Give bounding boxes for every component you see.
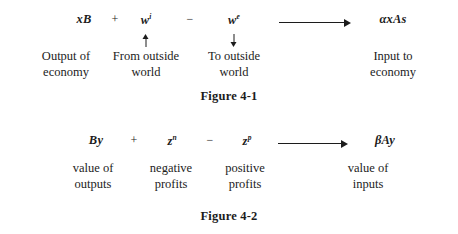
minus-operator: − xyxy=(207,133,214,148)
column-label: Input toeconomy xyxy=(370,49,416,80)
label-line-2: economy xyxy=(42,65,90,81)
column-label: value ofinputs xyxy=(348,161,389,192)
equation-term: αxAs xyxy=(379,12,406,27)
column-label: Output ofeconomy xyxy=(42,49,90,80)
label-line-1: From outside xyxy=(113,49,179,63)
label-line-2: world xyxy=(208,65,260,81)
equation-term: βAy xyxy=(375,133,395,148)
label-line-1: value of xyxy=(73,161,114,175)
figure-4-2: ByznzpβAy+− value ofoutputsnegativeprofi… xyxy=(0,133,458,195)
label-row: Output ofeconomyFrom outsideworldTo outs… xyxy=(0,49,458,83)
column-label: positiveprofits xyxy=(225,161,265,192)
up-arrow-icon xyxy=(142,34,151,47)
label-line-2: profits xyxy=(150,177,192,193)
label-line-1: negative xyxy=(150,161,192,175)
label-line-2: inputs xyxy=(348,177,389,193)
label-line-2: economy xyxy=(370,65,416,81)
equation-row: ByznzpβAy+− xyxy=(0,133,458,155)
term-base: w xyxy=(141,13,150,27)
column-label: From outsideworld xyxy=(113,49,179,80)
term-superscript: n xyxy=(172,133,176,142)
equation-term: xB xyxy=(77,12,92,27)
right-arrow-icon xyxy=(279,17,351,28)
label-line-1: value of xyxy=(348,161,389,175)
plus-operator: + xyxy=(131,133,138,148)
label-line-1: To outside xyxy=(208,49,260,63)
equation-term: zn xyxy=(167,133,176,149)
minus-operator: − xyxy=(187,12,194,27)
down-arrow-icon xyxy=(230,34,239,47)
label-line-1: Input to xyxy=(373,49,412,63)
term-superscript: i xyxy=(149,12,151,21)
term-base: αxAs xyxy=(379,12,406,26)
term-base: βAy xyxy=(375,133,395,147)
term-base: xB xyxy=(77,12,92,26)
label-line-2: world xyxy=(113,65,179,81)
equation-term: wi xyxy=(141,12,152,28)
vertical-arrow-row xyxy=(0,34,458,49)
term-base: By xyxy=(89,133,103,147)
figure-caption: Figure 4-2 xyxy=(0,209,458,224)
equation-term: By xyxy=(89,133,103,148)
plus-operator: + xyxy=(112,12,119,27)
column-label: negativeprofits xyxy=(150,161,192,192)
label-line-2: outputs xyxy=(73,177,114,193)
label-line-1: positive xyxy=(225,161,265,175)
term-base: w xyxy=(228,13,237,27)
label-line-2: profits xyxy=(225,177,265,193)
equation-term: zp xyxy=(243,133,252,149)
column-label: value ofoutputs xyxy=(73,161,114,192)
term-superscript: p xyxy=(248,133,252,142)
figure-4-1: xBwiweαxAs+− Output ofeconomyFrom outsid… xyxy=(0,12,458,83)
term-superscript: e xyxy=(237,12,240,21)
equation-row: xBwiweαxAs+− xyxy=(0,12,458,34)
label-line-1: Output of xyxy=(42,49,90,63)
right-arrow-icon xyxy=(278,138,348,149)
label-row: value ofoutputsnegativeprofitspositivepr… xyxy=(0,161,458,195)
column-label: To outsideworld xyxy=(208,49,260,80)
equation-term: we xyxy=(228,12,240,28)
figure-caption: Figure 4-1 xyxy=(0,89,458,104)
